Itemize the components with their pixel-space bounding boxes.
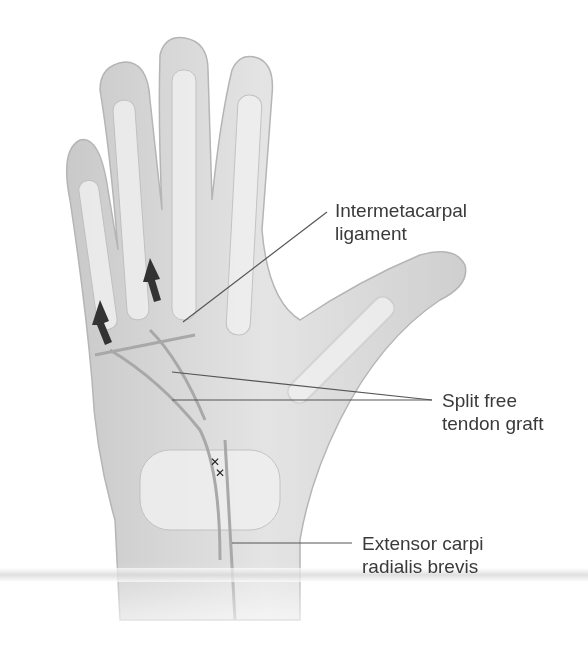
hand-illustration: ✕ ✕: [0, 0, 588, 658]
label-split-free-tendon-graft: Split free tendon graft: [442, 389, 543, 435]
label-line: Extensor carpi: [362, 532, 483, 555]
label-line: Intermetacarpal: [335, 199, 467, 222]
label-line: Split free: [442, 389, 543, 412]
svg-text:✕: ✕: [215, 466, 225, 480]
scan-artifact: [0, 568, 588, 582]
label-line: ligament: [335, 222, 467, 245]
label-line: radialis brevis: [362, 555, 483, 578]
label-line: tendon graft: [442, 412, 543, 435]
anatomy-figure: ✕ ✕ Intermetacarpal ligament Split free …: [0, 0, 588, 658]
label-intermetacarpal-ligament: Intermetacarpal ligament: [335, 199, 467, 245]
label-extensor-carpi-radialis-brevis: Extensor carpi radialis brevis: [362, 532, 483, 578]
